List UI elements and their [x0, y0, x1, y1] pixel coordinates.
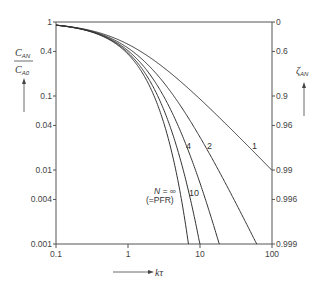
svg-text:ζAN: ζAN [296, 65, 309, 77]
curve-label-10: 10 [189, 188, 199, 198]
y-tick-right: 0.996 [276, 194, 298, 204]
x-tick: 1 [126, 249, 131, 259]
tick-labels: 100.40.60.10.90.040.960.010.990.0040.996… [31, 17, 298, 259]
curve-N-4 [56, 25, 219, 244]
curve-N-2 [56, 25, 257, 244]
svg-text:CA0: CA0 [15, 64, 30, 76]
svg-text:kτ: kτ [155, 267, 163, 278]
y-tick-right: 0.99 [276, 165, 293, 175]
y-tick-right: 0.999 [276, 239, 298, 249]
curve-label-1: 1 [252, 141, 257, 151]
y-tick-right: 0.6 [276, 46, 288, 56]
y-tick-right: 0.9 [276, 91, 288, 101]
svg-text:CAN: CAN [15, 47, 31, 59]
y-tick-left: 0.01 [35, 165, 52, 175]
left-axis-title: CAN CA0 [14, 47, 33, 112]
x-axis-title: kτ [113, 267, 163, 278]
y-tick-left: 0.04 [35, 120, 52, 130]
x-tick: 100 [265, 249, 279, 259]
y-tick-left: 0.4 [40, 46, 52, 56]
right-axis-title: ζAN [296, 65, 309, 116]
x-tick: 0.1 [50, 249, 62, 259]
y-tick-left: 0.004 [31, 194, 53, 204]
x-tick: 10 [195, 249, 205, 259]
curve-N-N = ∞ (=PFR) [56, 25, 188, 244]
curve-label-pfr-line2: (=PFR) [146, 195, 174, 205]
chart: 100.40.60.10.90.040.960.010.990.0040.996… [0, 0, 323, 289]
curve-label-2: 2 [207, 141, 212, 151]
y-tick-left: 0.1 [40, 91, 52, 101]
curve-label-4: 4 [186, 141, 191, 151]
y-tick-right: 0.96 [276, 120, 293, 130]
curves [56, 25, 272, 244]
y-tick-left: 1 [47, 17, 52, 27]
curve-N-10 [56, 25, 200, 244]
y-tick-left: 0.001 [31, 239, 53, 249]
y-tick-right: 0 [276, 17, 281, 27]
